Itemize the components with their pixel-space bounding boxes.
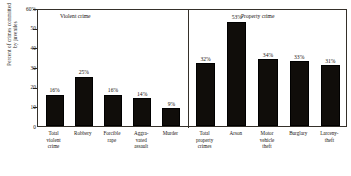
x-category-label-line: theft bbox=[313, 137, 346, 144]
bar bbox=[290, 61, 309, 126]
bar bbox=[104, 95, 122, 126]
x-category-label-line: Larceny- bbox=[313, 130, 346, 137]
bar-column: 34% bbox=[258, 8, 277, 126]
x-category-label: Totalpropertycrimes bbox=[188, 130, 221, 150]
x-category-label-line: Motor bbox=[251, 130, 284, 137]
bar-value-label: 32% bbox=[200, 56, 210, 62]
x-category-label-line: violent bbox=[38, 137, 69, 144]
bar-column: 53% bbox=[227, 8, 246, 126]
x-category-label-line: Murder bbox=[155, 130, 186, 137]
bar-series: 16%25%16%14%9%32%53%34%33%31% bbox=[38, 10, 346, 126]
bar-column: 25% bbox=[75, 8, 93, 126]
x-category-label-line: vehicle bbox=[251, 137, 284, 144]
x-category-label-line: Burglary bbox=[282, 130, 315, 137]
x-category-label-line: crimes bbox=[188, 143, 221, 150]
x-category-label-line: Total bbox=[38, 130, 69, 137]
bar-value-label: 53% bbox=[232, 14, 242, 20]
bar-column: 33% bbox=[290, 8, 309, 126]
bar bbox=[258, 59, 277, 126]
bar-column: 32% bbox=[196, 8, 215, 126]
plot-area: Violent crime Property crime 16%25%16%14… bbox=[37, 9, 347, 127]
bar bbox=[321, 65, 340, 126]
x-category-label-line: crime bbox=[38, 143, 69, 150]
bar-value-label: 9% bbox=[168, 101, 175, 107]
x-category-label: Forciblerape bbox=[97, 130, 128, 143]
bar bbox=[162, 108, 180, 126]
x-category-label: Robbery bbox=[67, 130, 98, 137]
bar-value-label: 33% bbox=[294, 54, 304, 60]
x-category-label: Arson bbox=[219, 130, 252, 137]
y-tick-label: 0 bbox=[33, 124, 36, 130]
x-category-label: Murder bbox=[155, 130, 186, 137]
x-category-label-line: rape bbox=[97, 137, 128, 144]
x-category-label: Larceny-theft bbox=[313, 130, 346, 143]
x-category-label-line: Arson bbox=[219, 130, 252, 137]
bar-column: 9% bbox=[162, 8, 180, 126]
bar-column: 16% bbox=[104, 8, 122, 126]
bar-value-label: 25% bbox=[79, 69, 89, 75]
x-category-label: Burglary bbox=[282, 130, 315, 137]
x-category-label: Totalviolentcrime bbox=[38, 130, 69, 150]
x-category-label-line: Total bbox=[188, 130, 221, 137]
x-category-label-line: property bbox=[188, 137, 221, 144]
bar bbox=[196, 63, 215, 126]
bar-value-label: 14% bbox=[137, 91, 147, 97]
x-category-label-line: vated bbox=[126, 137, 157, 144]
bar-value-label: 16% bbox=[108, 87, 118, 93]
bar-chart: Percent of crimes committed by juveniles… bbox=[0, 0, 351, 176]
bar-column: 16% bbox=[46, 8, 64, 126]
x-category-label-line: theft bbox=[251, 143, 284, 150]
x-category-label-line: Robbery bbox=[67, 130, 98, 137]
x-category-label: Motorvehicletheft bbox=[251, 130, 284, 150]
bar-value-label: 34% bbox=[263, 52, 273, 58]
y-axis-ticks: 60%50403020100 bbox=[0, 0, 40, 176]
bar-column: 14% bbox=[133, 8, 151, 126]
bar-value-label: 31% bbox=[325, 58, 335, 64]
bar-value-label: 16% bbox=[49, 87, 59, 93]
x-category-label: Aggra-vatedassault bbox=[126, 130, 157, 150]
x-category-label-line: Forcible bbox=[97, 130, 128, 137]
x-category-label-line: Aggra- bbox=[126, 130, 157, 137]
x-axis-category-labels: TotalviolentcrimeRobberyForciblerapeAggr… bbox=[37, 130, 347, 176]
bar bbox=[133, 98, 151, 126]
x-category-label-line: assault bbox=[126, 143, 157, 150]
bar-column: 31% bbox=[321, 8, 340, 126]
bar bbox=[227, 22, 246, 126]
bar bbox=[75, 77, 93, 126]
bar bbox=[46, 95, 64, 126]
